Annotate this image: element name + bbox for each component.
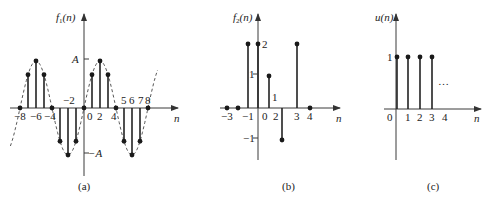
x-tick-label: 0 — [387, 111, 393, 123]
data-point — [106, 72, 111, 77]
x-tick-label: 4 — [111, 110, 117, 122]
x-tick-label: 0 — [262, 110, 268, 122]
x-tick-label: 6 — [129, 94, 135, 106]
x-axis-label: n — [174, 112, 180, 124]
data-point — [280, 138, 285, 143]
data-point — [395, 55, 400, 60]
x-tick-label: 2 — [417, 111, 423, 123]
x-tick-label: −6 — [30, 110, 42, 122]
x-tick-label: 3 — [294, 110, 300, 122]
y-tick-label-1: 1 — [249, 68, 255, 80]
x-tick-label: 2 — [273, 110, 279, 122]
data-point — [42, 72, 47, 77]
x-tick-label: 2 — [97, 110, 103, 122]
data-point — [58, 139, 63, 144]
annotation-1: 1 — [272, 91, 278, 103]
x-tick-label: 8 — [145, 94, 151, 106]
panel-b: f2(n) 2 1 −1 1 n −3 −1 0 2 3 4 (b) — [220, 11, 342, 193]
data-point — [74, 139, 79, 144]
x-tick-label: 0 — [87, 110, 93, 122]
y-axis-label: f2(n) — [233, 11, 253, 25]
data-point — [267, 74, 272, 79]
data-point — [418, 55, 423, 60]
panel-a: A −A f1(n) n −8 −6 −4 −2 0 2 4 5 6 7 8 (… — [10, 11, 180, 193]
data-point — [82, 106, 87, 111]
y-tick-label-1: 1 — [387, 51, 393, 63]
stem-series — [395, 55, 435, 109]
x-tick-label: 7 — [138, 94, 144, 106]
x-tick-label: −4 — [44, 110, 56, 122]
x-tick-label: 4 — [307, 110, 313, 122]
data-point — [34, 59, 39, 64]
x-tick-label: 3 — [429, 111, 435, 123]
data-point — [26, 72, 31, 77]
y-tick-label-A: A — [71, 53, 79, 65]
data-point — [430, 55, 435, 60]
continuation-ellipsis: … — [438, 75, 449, 87]
caption-b: (b) — [282, 180, 295, 193]
data-point — [406, 55, 411, 60]
data-point — [98, 59, 103, 64]
x-tick-label: −2 — [63, 94, 75, 106]
data-point — [138, 139, 143, 144]
caption-c: (c) — [427, 180, 440, 193]
y-axis-label: f1(n) — [56, 11, 76, 25]
y-tick-label-minus-A: −A — [88, 147, 102, 159]
x-tick-label: −3 — [221, 110, 233, 122]
data-point — [236, 106, 241, 111]
data-point — [146, 106, 151, 111]
data-point — [90, 72, 95, 77]
data-point — [130, 153, 135, 158]
data-point — [122, 139, 127, 144]
x-tick-label: 5 — [121, 94, 127, 106]
y-axis-label: u(n) — [375, 11, 394, 24]
x-axis-label: n — [336, 112, 342, 124]
y-tick-label-2: 2 — [262, 38, 268, 50]
data-point — [246, 42, 251, 47]
caption-a: (a) — [78, 180, 91, 193]
x-tick-label: 1 — [405, 111, 411, 123]
x-tick-label: −8 — [14, 110, 26, 122]
y-tick-label-minus-1: −1 — [243, 132, 255, 144]
data-point — [66, 153, 71, 158]
data-point — [256, 42, 261, 47]
stem-series — [225, 42, 313, 143]
x-tick-label: −1 — [242, 110, 254, 122]
x-axis-label: n — [474, 112, 480, 124]
figure-canvas: A −A f1(n) n −8 −6 −4 −2 0 2 4 5 6 7 8 (… — [0, 0, 488, 201]
data-point — [295, 42, 300, 47]
panel-c: u(n) 1 … n 0 1 2 3 4 (c) — [375, 11, 481, 193]
x-tick-label: 4 — [442, 111, 448, 123]
